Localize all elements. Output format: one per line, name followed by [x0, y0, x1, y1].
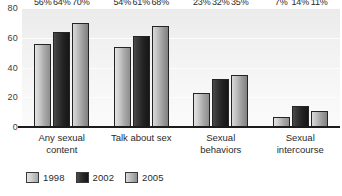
bar[interactable]: 11% [311, 111, 328, 127]
category-label: Any sexualcontent [22, 131, 102, 161]
bar[interactable]: 68% [152, 26, 169, 127]
bar-value-label: 7% [275, 0, 288, 7]
bar-column: 64% [53, 8, 70, 127]
bar-column: 56% [34, 8, 51, 127]
bar-group: 54%61%68% [102, 8, 182, 127]
bar[interactable]: 70% [72, 23, 89, 127]
bar-column: 32% [212, 8, 229, 127]
bar-column: 35% [231, 8, 248, 127]
legend-item-2002[interactable]: 2002 [76, 172, 115, 183]
legend-label: 2005 [142, 172, 164, 183]
legend-swatch-icon [76, 172, 89, 183]
category-label-line: content [22, 144, 102, 156]
bar-set: 56%64%70% [22, 8, 102, 127]
bar-value-label: 11% [311, 0, 328, 7]
category-label: Sexualintercourse [261, 131, 341, 161]
bar-value-label: 14% [291, 0, 309, 7]
legend-item-1998[interactable]: 1998 [26, 172, 65, 183]
category-label-line: Talk about sex [102, 132, 182, 144]
bar-column: 11% [311, 8, 328, 127]
bar-value-label: 70% [72, 0, 90, 7]
bar-set: 7%14%11% [261, 8, 341, 127]
bar-column: 23% [193, 8, 210, 127]
y-tick-label: 80 [0, 3, 18, 13]
bar-column: 70% [72, 8, 89, 127]
bar[interactable]: 61% [133, 36, 150, 127]
category-label: Talk about sex [102, 131, 182, 161]
bar-value-label: 54% [113, 0, 131, 7]
bar-column: 14% [292, 8, 309, 127]
bar-column: 54% [114, 8, 131, 127]
bar-group: 56%64%70% [22, 8, 102, 127]
category-label-line: behaviors [181, 144, 261, 156]
bar[interactable]: 35% [231, 75, 248, 127]
bar-column: 68% [152, 8, 169, 127]
bar-value-label: 68% [151, 0, 169, 7]
y-tick-label: 60 [0, 33, 18, 43]
bar-chart: 80 60 40 20 0 56%64%70%54%61%68%23%32%35… [0, 0, 342, 196]
legend-item-2005[interactable]: 2005 [125, 172, 164, 183]
legend-label: 1998 [43, 172, 65, 183]
category-label: Sexualbehaviors [181, 131, 261, 161]
category-label-line: Any sexual [22, 132, 102, 144]
bar-group: 7%14%11% [261, 8, 341, 127]
category-label-line: Sexual [181, 132, 261, 144]
category-label-line: intercourse [261, 144, 341, 156]
bar-groups: 56%64%70%54%61%68%23%32%35%7%14%11% [22, 8, 340, 127]
legend-swatch-icon [125, 172, 138, 183]
bar-value-label: 56% [34, 0, 52, 7]
y-tick-label: 0 [0, 122, 18, 132]
category-label-line: Sexual [261, 132, 341, 144]
bar-column: 7% [273, 8, 290, 127]
y-tick-label: 20 [0, 92, 18, 102]
bar-value-label: 61% [132, 0, 150, 7]
x-axis-line [18, 126, 340, 128]
bar-value-label: 35% [231, 0, 249, 7]
bar[interactable]: 23% [193, 93, 210, 127]
bar[interactable]: 64% [53, 32, 70, 127]
bar[interactable]: 32% [212, 79, 229, 127]
y-tick-label: 40 [0, 63, 18, 73]
legend: 1998 2002 2005 [26, 172, 168, 183]
bar-value-label: 23% [193, 0, 211, 7]
y-axis: 80 60 40 20 0 [0, 8, 18, 127]
x-axis-category-labels: Any sexualcontentTalk about sexSexualbeh… [22, 131, 340, 161]
bar-set: 54%61%68% [102, 8, 182, 127]
bar-column: 61% [133, 8, 150, 127]
legend-swatch-icon [26, 172, 39, 183]
bar-set: 23%32%35% [181, 8, 261, 127]
bar[interactable]: 14% [292, 106, 309, 127]
bar-value-label: 64% [53, 0, 71, 7]
bar-value-label: 32% [212, 0, 230, 7]
bar[interactable]: 56% [34, 44, 51, 127]
bar-group: 23%32%35% [181, 8, 261, 127]
legend-label: 2002 [93, 172, 115, 183]
bar[interactable]: 54% [114, 47, 131, 127]
